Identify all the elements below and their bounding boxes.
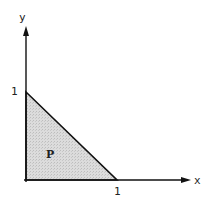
x-tick-label: 1 bbox=[114, 185, 121, 198]
y-axis-arrow-icon bbox=[23, 26, 29, 36]
x-axis-arrow-icon bbox=[181, 177, 191, 183]
y-axis-label: y bbox=[19, 11, 26, 24]
diagram: y x 1 1 P bbox=[0, 0, 210, 205]
triangle-region-diagram: y x 1 1 P bbox=[0, 0, 210, 205]
region-p bbox=[26, 92, 117, 180]
y-tick-label: 1 bbox=[11, 85, 18, 98]
region-label: P bbox=[46, 148, 54, 161]
x-axis-label: x bbox=[194, 174, 201, 187]
